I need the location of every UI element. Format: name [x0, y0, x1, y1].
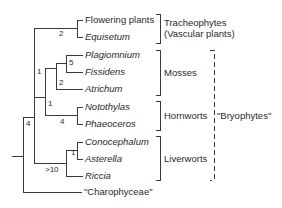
support-land-plants-minus-liverworts: 1 [37, 67, 41, 76]
taxon-fissidens: Fissidens [85, 66, 125, 77]
support-mosses-hornworts: 1 [48, 99, 52, 108]
mosses-bracket [156, 50, 160, 95]
taxon-notothylas: Notothylas [85, 101, 130, 112]
taxon-phaeoceros: Phaeoceros [85, 118, 136, 129]
support-liverworts: >10 [45, 165, 59, 174]
group-mosses: Mosses [164, 67, 197, 78]
support-conocephalum-asterella: 1 [71, 148, 75, 157]
taxon-plagiomnium: Plagiomnium [85, 49, 140, 60]
hornworts-bracket [156, 101, 160, 130]
support-plagiomnium-fissidens: 5 [69, 58, 73, 67]
support-mosses: 2 [59, 78, 63, 87]
bryophytes-bracket [210, 50, 214, 180]
taxon-charophyceae: "Charophyceae" [84, 186, 153, 197]
taxon-equisetum: Equisetum [85, 31, 130, 42]
group-hornworts: Hornworts [164, 110, 207, 121]
tracheophytes-bracket [156, 14, 160, 43]
group-vascular-plants: (Vascular plants) [164, 28, 235, 39]
liverworts-bracket [156, 136, 160, 180]
taxon-atrichum: Atrichum [85, 83, 122, 94]
taxon-riccia: Riccia [85, 170, 111, 181]
taxon-asterella: Asterella [85, 153, 122, 164]
group-bryophytes: "Bryophytes" [217, 110, 271, 121]
support-root: 4 [26, 119, 30, 128]
group-liverworts: Liverworts [164, 153, 207, 164]
taxon-flowering-plants: Flowering plants [85, 14, 154, 25]
phylogenetic-tree [0, 0, 282, 208]
support-hornworts: 4 [60, 117, 64, 126]
group-tracheophytes: Tracheophytes [164, 17, 227, 28]
taxon-conocephalum: Conocephalum [85, 136, 149, 147]
support-tracheophytes: 2 [59, 29, 63, 38]
